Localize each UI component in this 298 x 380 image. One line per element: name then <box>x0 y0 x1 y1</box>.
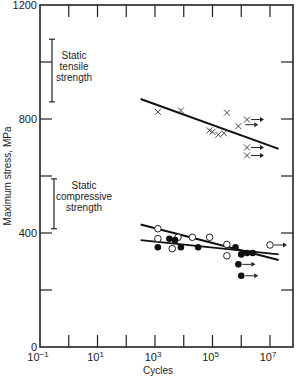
annotation-text: Static <box>71 180 96 191</box>
x-tick-label: 103 <box>145 350 162 363</box>
chart: 0400800120010−1101103105107 Statictensil… <box>0 0 298 380</box>
annotation-text: compressive <box>56 191 113 202</box>
x-tick-label: 101 <box>87 350 104 363</box>
open-circle-marker <box>169 245 176 252</box>
x-marker <box>155 109 161 115</box>
filled-circle-marker <box>235 261 242 268</box>
x-marker <box>215 132 221 138</box>
fit-line <box>141 99 279 149</box>
open-circle-marker <box>206 234 213 241</box>
x-marker <box>244 145 250 151</box>
annotation-text: tensile <box>60 61 89 72</box>
open-circle-marker <box>224 253 231 260</box>
filled-circle-marker <box>172 237 179 244</box>
strength-annotations: StatictensilestrengthStaticcompressivest… <box>49 39 112 229</box>
open-circle-marker <box>267 242 274 249</box>
x-marker <box>221 130 227 136</box>
open-circle-marker <box>189 234 196 241</box>
filled-circle-marker <box>249 250 256 257</box>
x-marker <box>244 152 250 158</box>
filled-circle-marker <box>155 244 162 251</box>
y-tick-label: 800 <box>19 113 37 125</box>
annotation-text: strength <box>66 202 102 213</box>
x-axis-label: Cycles <box>143 365 173 376</box>
runout-arrowhead <box>254 122 258 127</box>
y-tick-label: 400 <box>19 227 37 239</box>
runout-arrowhead <box>260 145 264 150</box>
runout-arrowhead <box>260 153 264 158</box>
filled-circle-marker <box>195 244 202 251</box>
runout-arrowhead <box>260 117 264 122</box>
annotation-text: Static <box>61 50 86 61</box>
y-axis-label: Maximum stress, MPa <box>2 126 13 225</box>
open-circle-marker <box>155 225 162 232</box>
x-marker <box>210 129 216 135</box>
x-tick-label: 10−1 <box>27 350 49 363</box>
x-marker <box>244 117 250 123</box>
filled-circle-marker <box>238 272 245 279</box>
x-tick-label: 105 <box>202 350 219 363</box>
x-marker <box>235 123 241 129</box>
runout-arrowhead <box>283 242 287 247</box>
filled-circle-marker <box>244 250 251 257</box>
runout-arrowhead <box>254 273 258 278</box>
open-circle-marker <box>155 235 162 242</box>
filled-circle-marker <box>166 235 173 242</box>
y-tick-label: 1200 <box>13 0 37 11</box>
x-tick-label: 107 <box>260 350 277 363</box>
x-marker <box>224 110 230 116</box>
filled-circle-marker <box>232 244 239 251</box>
filled-circle-marker <box>178 244 185 251</box>
runout-arrowhead <box>251 262 255 267</box>
filled-circle-marker <box>238 251 245 258</box>
open-circle-marker <box>224 241 231 248</box>
annotation-text: strength <box>56 72 92 83</box>
